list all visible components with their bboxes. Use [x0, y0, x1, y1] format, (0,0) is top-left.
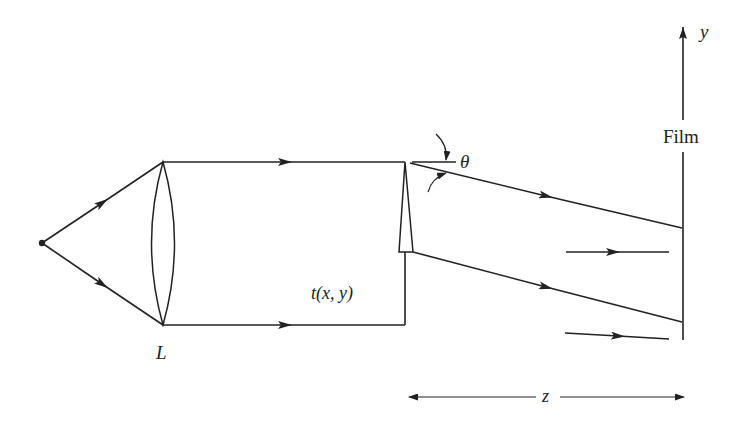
optics-diagram: L t(x, y) θ Film y z	[0, 0, 739, 424]
deflected-rays	[410, 163, 682, 322]
y-axis-label: y	[700, 22, 708, 41]
prism-icon	[399, 162, 413, 252]
diagram-svg	[0, 0, 739, 424]
angle-arrow-bottom-icon	[428, 173, 446, 192]
theta-label: θ	[460, 152, 469, 171]
z-label: z	[542, 387, 549, 405]
lens-label: L	[156, 343, 167, 362]
angle-arrow-top-icon	[436, 134, 446, 160]
film-label: Film	[663, 127, 699, 146]
transmittance-label: t(x, y)	[311, 284, 353, 302]
diverging-rays	[42, 162, 163, 325]
lens-icon	[152, 162, 175, 325]
collimated-beam	[163, 162, 405, 325]
